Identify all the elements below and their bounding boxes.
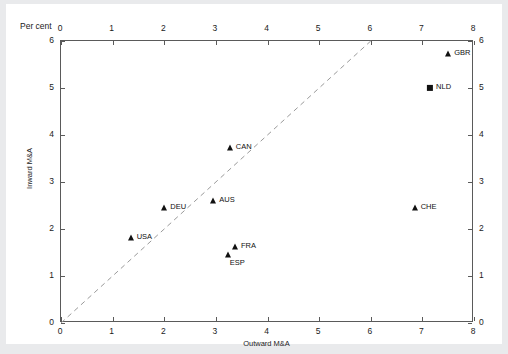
y-axis-title: Inward M&A bbox=[25, 124, 34, 214]
triangle-marker-icon bbox=[210, 197, 216, 203]
y-tick-label-left: 2 bbox=[38, 224, 54, 233]
data-point-label: DEU bbox=[170, 203, 186, 211]
x-tick-label-bottom: 8 bbox=[471, 327, 476, 336]
x-tick-bottom bbox=[474, 317, 475, 321]
triangle-marker-icon bbox=[227, 145, 233, 151]
plot-area: GBRNLDCANAUSCHEDEUUSAFRAESP bbox=[60, 40, 473, 322]
y-tick-right bbox=[468, 323, 472, 324]
x-tick-label-bottom: 0 bbox=[58, 327, 63, 336]
x-tick-label-top: 1 bbox=[109, 24, 114, 33]
percent-unit-label: Per cent bbox=[20, 21, 52, 31]
data-point-label: NLD bbox=[436, 83, 451, 91]
x-tick-label-top: 2 bbox=[161, 24, 166, 33]
x-tick-label-bottom: 6 bbox=[367, 327, 372, 336]
y-tick-label-right: 0 bbox=[479, 318, 484, 327]
y-tick-label-right: 6 bbox=[479, 36, 484, 45]
data-point-label: USA bbox=[137, 233, 152, 241]
y-tick-label-left: 1 bbox=[38, 271, 54, 280]
x-tick-label-bottom: 4 bbox=[264, 327, 269, 336]
x-tick-label-bottom: 1 bbox=[109, 327, 114, 336]
y-tick-label-left: 4 bbox=[38, 130, 54, 139]
y-tick-label-left: 6 bbox=[38, 36, 54, 45]
triangle-marker-icon bbox=[412, 204, 418, 210]
square-marker-icon bbox=[427, 85, 433, 91]
data-points-layer: GBRNLDCANAUSCHEDEUUSAFRAESP bbox=[61, 41, 472, 321]
triangle-marker-icon bbox=[128, 235, 134, 241]
y-tick-label-right: 4 bbox=[479, 130, 484, 139]
x-tick-label-bottom: 5 bbox=[316, 327, 321, 336]
triangle-marker-icon bbox=[232, 243, 238, 249]
x-axis-title: Outward M&A bbox=[60, 339, 473, 348]
y-tick-label-left: 5 bbox=[38, 83, 54, 92]
data-point-label: FRA bbox=[241, 242, 256, 250]
y-tick-label-right: 3 bbox=[479, 177, 484, 186]
y-tick-label-right: 1 bbox=[479, 271, 484, 280]
figure: Per cent Inward M&A Outward M&A GBRNLDCA… bbox=[0, 0, 508, 354]
y-tick-label-right: 5 bbox=[479, 83, 484, 92]
x-tick-label-top: 8 bbox=[471, 24, 476, 33]
y-tick-label-left: 3 bbox=[38, 177, 54, 186]
x-tick-label-top: 6 bbox=[367, 24, 372, 33]
triangle-marker-icon bbox=[445, 51, 451, 57]
x-tick-label-top: 0 bbox=[58, 24, 63, 33]
data-point-label: AUS bbox=[219, 196, 234, 204]
x-tick-label-bottom: 7 bbox=[419, 327, 424, 336]
triangle-marker-icon bbox=[161, 204, 167, 210]
x-tick-label-top: 5 bbox=[316, 24, 321, 33]
data-point-label: CHE bbox=[421, 203, 437, 211]
x-tick-label-top: 4 bbox=[264, 24, 269, 33]
chart-canvas: Per cent Inward M&A Outward M&A GBRNLDCA… bbox=[6, 4, 502, 344]
x-tick-top bbox=[474, 41, 475, 45]
x-tick-label-bottom: 2 bbox=[161, 327, 166, 336]
triangle-marker-icon bbox=[225, 251, 231, 257]
x-tick-label-bottom: 3 bbox=[213, 327, 218, 336]
data-point-label: CAN bbox=[236, 143, 252, 151]
data-point-label: GBR bbox=[454, 49, 470, 57]
y-tick-label-right: 2 bbox=[479, 224, 484, 233]
x-tick-label-top: 3 bbox=[213, 24, 218, 33]
data-point-label: ESP bbox=[230, 259, 245, 267]
x-tick-label-top: 7 bbox=[419, 24, 424, 33]
y-tick-left bbox=[61, 323, 65, 324]
y-tick-label-left: 0 bbox=[38, 318, 54, 327]
